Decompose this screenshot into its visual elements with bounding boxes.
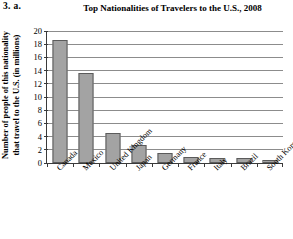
bar-slot <box>204 31 230 163</box>
chart-figure: 3. a. Top Nationalities of Travelers to … <box>0 0 293 239</box>
y-axis-tick-mark <box>44 123 48 124</box>
y-axis-tick-mark <box>44 57 48 58</box>
y-axis-tick-label: 10 <box>34 93 43 102</box>
bar-slot <box>99 31 125 163</box>
bar-slot <box>231 31 257 163</box>
y-axis-tick-mark <box>44 83 48 84</box>
y-axis-tick-label: 18 <box>34 40 43 49</box>
y-axis-tick-mark <box>44 110 48 111</box>
y-axis-tick-label: 14 <box>34 66 43 75</box>
y-axis-tick-label: 2 <box>38 145 42 154</box>
y-axis-tick-mark <box>44 44 48 45</box>
y-axis-tick-label: 20 <box>34 27 43 36</box>
y-axis-tick-mark <box>44 149 48 150</box>
bar-slot <box>257 31 283 163</box>
y-axis-tick-mark <box>44 31 48 32</box>
bar[interactable] <box>53 40 68 163</box>
y-axis-tick-label: 12 <box>34 79 43 88</box>
problem-number-label: 3. a. <box>3 1 21 12</box>
x-axis-category-labels: CanadaMexicoUnited KingdomJapanGermanyFr… <box>46 164 283 239</box>
y-axis-tick-label: 6 <box>38 119 42 128</box>
bar-series <box>47 31 283 163</box>
y-axis-tick-label: 8 <box>38 106 42 115</box>
bar-slot <box>152 31 178 163</box>
y-axis-tick-mark <box>44 136 48 137</box>
bar[interactable] <box>79 73 94 163</box>
y-axis-tick-label: 16 <box>34 53 43 62</box>
bar-slot <box>178 31 204 163</box>
chart-title: Top Nationalities of Travelers to the U.… <box>52 3 293 14</box>
y-axis-tick-label: 4 <box>38 132 42 141</box>
bar-slot <box>47 31 73 163</box>
y-axis-title: Number of people of this nationality tha… <box>1 15 31 175</box>
y-axis-tick-mark <box>44 97 48 98</box>
y-axis-tick-mark <box>44 70 48 71</box>
y-axis-tick-label: 0 <box>38 159 42 168</box>
plot-area: 02468101214161820 <box>46 31 283 164</box>
bar-slot <box>73 31 99 163</box>
